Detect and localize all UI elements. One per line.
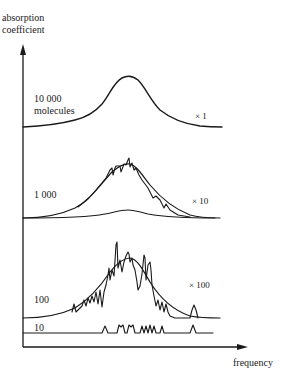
panel-10-count: 10 [34, 322, 44, 333]
panel-10000-unit: molecules [34, 105, 75, 116]
y-axis-arrow-icon [20, 44, 26, 55]
panel-1000-scale: × 10 [192, 196, 208, 207]
curve-100-spiky [72, 242, 198, 318]
y-axis-label-line1: absorption [2, 12, 44, 23]
curve-10-molecules [23, 325, 213, 333]
y-axis-label-line2: coefficient [2, 24, 45, 35]
panel-100-count: 100 [34, 294, 49, 305]
panel-1000-count: 1 000 [34, 189, 57, 200]
curve-1000-noisy [78, 158, 190, 217]
panel-10000-scale: × 1 [195, 111, 207, 122]
x-axis-arrow-icon [237, 344, 248, 350]
panel-10000-count: 10 000 [34, 93, 62, 104]
x-axis-label: frequency [233, 357, 273, 368]
panel-100-scale: × 100 [189, 280, 210, 291]
